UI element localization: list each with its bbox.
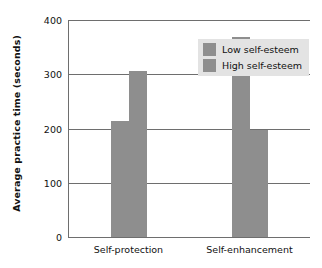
y-tick-label-100: 100: [28, 178, 62, 189]
gridline-0: [68, 237, 310, 238]
x-tick-label-self-enhancement: Self-enhancement: [190, 244, 310, 255]
y-tick-label-300: 300: [28, 69, 62, 80]
y-axis-title: Average practice time (seconds): [11, 24, 22, 224]
legend-item-low-self-esteem: Low self-esteem: [203, 43, 302, 56]
gridline-100: [68, 183, 310, 184]
legend-item-high-self-esteem: High self-esteem: [203, 59, 302, 72]
y-tick-label-400: 400: [28, 15, 62, 26]
bar-chart: Average practice time (seconds) 01002003…: [0, 0, 322, 268]
gridline-400: [68, 20, 310, 21]
legend-label-low-self-esteem: Low self-esteem: [222, 45, 299, 55]
chart-legend: Low self-esteem High self-esteem: [198, 39, 309, 76]
bar-self-protection-low-self-esteem: [111, 121, 129, 237]
bar-self-enhancement-high-self-esteem: [250, 130, 268, 237]
bar-self-protection-high-self-esteem: [129, 71, 147, 237]
legend-swatch-low-self-esteem: [203, 43, 216, 56]
y-tick-label-0: 0: [28, 232, 62, 243]
legend-label-high-self-esteem: High self-esteem: [222, 61, 302, 71]
x-tick-label-self-protection: Self-protection: [69, 244, 189, 255]
legend-swatch-high-self-esteem: [203, 59, 216, 72]
gridline-200: [68, 129, 310, 130]
y-tick-label-200: 200: [28, 124, 62, 135]
